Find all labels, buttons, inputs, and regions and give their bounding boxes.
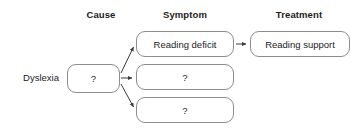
edge-cause-to-reading-deficit: [121, 47, 134, 73]
edge-cause-to-symptom-unknown-2: [121, 84, 134, 107]
diagram-canvas: Cause Symptom Treatment Dyslexia ? Readi…: [0, 0, 362, 131]
row-label-dyslexia: Dyslexia: [0, 72, 59, 84]
column-header-symptom: Symptom: [145, 9, 225, 21]
node-label: ?: [182, 72, 187, 83]
node-label: ?: [182, 105, 187, 116]
node-label: Reading support: [265, 39, 335, 50]
node-symptom-unknown-2[interactable]: ?: [136, 97, 234, 123]
column-header-cause: Cause: [61, 9, 141, 21]
node-reading-deficit[interactable]: Reading deficit: [136, 31, 234, 57]
node-label: Reading deficit: [154, 39, 217, 50]
node-cause-unknown[interactable]: ?: [67, 64, 120, 93]
node-reading-support[interactable]: Reading support: [250, 31, 350, 57]
column-header-treatment: Treatment: [259, 9, 339, 21]
node-symptom-unknown-1[interactable]: ?: [136, 64, 234, 90]
node-label: ?: [91, 73, 96, 84]
